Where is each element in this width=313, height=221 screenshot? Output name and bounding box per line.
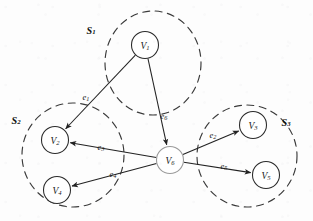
edge-e3 — [70, 143, 156, 158]
cluster-boundary-s2 — [22, 103, 124, 207]
edge-e5 — [184, 162, 251, 172]
cluster-boundary-s1 — [105, 11, 201, 115]
edge-e6 — [148, 59, 167, 145]
cluster-label-s2: S2 — [11, 115, 21, 126]
edge-label-e2: e2 — [210, 130, 217, 140]
graph-partition-figure: V1V2V3V4V5V6 e1e2e3e4e5e6 S1S2S3 — [0, 0, 313, 221]
figure-canvas: V1V2V3V4V5V6 e1e2e3e4e5e6 S1S2S3 — [0, 0, 313, 221]
cluster-label-s3: S3 — [281, 117, 291, 128]
edge-label-e3: e3 — [98, 142, 105, 152]
edge-e1 — [66, 55, 136, 129]
edge-label-e1: e1 — [83, 92, 90, 102]
edge-label-e5: e5 — [221, 161, 228, 171]
edge-label-e4: e4 — [110, 169, 117, 179]
cluster-label-s1: S1 — [86, 25, 95, 36]
